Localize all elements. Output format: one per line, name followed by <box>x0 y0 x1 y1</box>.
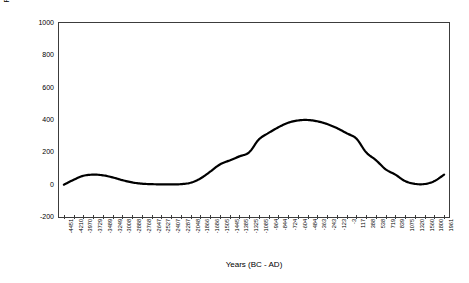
x-tick-mark <box>103 215 104 219</box>
y-tick-label: 600 <box>8 84 54 92</box>
x-tick-mark <box>200 215 201 219</box>
x-tick-label: -3008 <box>125 219 133 253</box>
x-tick-mark <box>405 215 406 219</box>
x-tick-label: 1961 <box>447 219 455 253</box>
x-tick-label: -1085 <box>262 219 270 253</box>
pollen-curve-svg <box>59 23 449 217</box>
x-tick-mark <box>376 215 377 219</box>
x-tick-mark <box>395 215 396 219</box>
x-tick-label: 538 <box>379 219 387 253</box>
x-tick-label: -964 <box>272 219 280 253</box>
x-tick-mark <box>239 215 240 219</box>
x-tick-label: -1866 <box>203 219 211 253</box>
x-tick-label: -1686 <box>213 219 221 253</box>
x-tick-mark <box>278 215 279 219</box>
x-tick-mark <box>288 215 289 219</box>
x-tick-mark <box>269 215 270 219</box>
y-tick-label: -200 <box>8 213 54 221</box>
x-tick-mark <box>386 215 387 219</box>
x-tick-mark <box>220 215 221 219</box>
x-axis-title: Years (BC - AD) <box>58 259 450 270</box>
x-tick-label: -1385 <box>242 219 250 253</box>
x-tick-mark <box>415 215 416 219</box>
x-tick-label: -2048 <box>194 219 202 253</box>
y-tick-label: 800 <box>8 51 54 59</box>
x-tick-mark <box>366 215 367 219</box>
x-tick-mark <box>142 215 143 219</box>
x-tick-label: -4210 <box>77 219 85 253</box>
x-tick-mark <box>122 215 123 219</box>
x-tick-mark <box>327 215 328 219</box>
x-tick-label: -2407 <box>174 219 182 253</box>
x-tick-label: 719 <box>389 219 397 253</box>
x-tick-label: -3249 <box>116 219 124 253</box>
plot-area <box>58 22 450 218</box>
x-tick-mark <box>308 215 309 219</box>
y-tick-label: 1000 <box>8 19 54 27</box>
x-tick-mark <box>298 215 299 219</box>
x-tick-label: -2287 <box>184 219 192 253</box>
x-tick-mark <box>444 215 445 219</box>
x-tick-mark <box>425 215 426 219</box>
x-tick-label: -844 <box>281 219 289 253</box>
x-tick-mark <box>249 215 250 219</box>
x-tick-mark <box>64 215 65 219</box>
x-axis-tick-labels: -4451-4210-3970-3729-3489-3249-3008-2888… <box>58 219 450 253</box>
x-tick-label: 117 <box>359 219 367 253</box>
pollen-count-line <box>64 120 444 185</box>
x-tick-label: -363 <box>320 219 328 253</box>
x-tick-label: -2888 <box>135 219 143 253</box>
x-tick-mark <box>347 215 348 219</box>
x-tick-label: -2527 <box>164 219 172 253</box>
x-tick-mark <box>161 215 162 219</box>
x-tick-label: -3970 <box>86 219 94 253</box>
x-tick-mark <box>434 215 435 219</box>
y-axis-tick-labels: 10008006004002000-200 <box>4 0 54 283</box>
pollen-count-chart: Plantago Pollen Count 10008006004002000-… <box>0 0 469 283</box>
x-tick-label: -1325 <box>252 219 260 253</box>
x-tick-label: 1800 <box>437 219 445 253</box>
x-tick-mark <box>171 215 172 219</box>
x-tick-mark <box>210 215 211 219</box>
x-tick-mark <box>181 215 182 219</box>
x-tick-label: 839 <box>398 219 406 253</box>
x-tick-label: 388 <box>369 219 377 253</box>
x-tick-mark <box>152 215 153 219</box>
x-tick-label: -3 <box>350 219 358 253</box>
x-tick-mark <box>317 215 318 219</box>
x-tick-label: -2647 <box>155 219 163 253</box>
x-tick-label: -1505 <box>223 219 231 253</box>
y-tick-label: 200 <box>8 148 54 156</box>
x-tick-mark <box>259 215 260 219</box>
x-tick-label: -484 <box>311 219 319 253</box>
x-tick-label: -1445 <box>233 219 241 253</box>
x-tick-label: -123 <box>340 219 348 253</box>
x-tick-label: 1075 <box>408 219 416 253</box>
x-tick-label: -3729 <box>96 219 104 253</box>
x-tick-label: -604 <box>301 219 309 253</box>
x-tick-mark <box>191 215 192 219</box>
x-tick-mark <box>132 215 133 219</box>
x-tick-mark <box>83 215 84 219</box>
y-tick-label: 0 <box>8 181 54 189</box>
x-tick-label: -2768 <box>145 219 153 253</box>
x-tick-mark <box>230 215 231 219</box>
x-tick-label: -243 <box>330 219 338 253</box>
x-tick-label: 1560 <box>428 219 436 253</box>
x-tick-mark <box>337 215 338 219</box>
x-tick-label: 1320 <box>418 219 426 253</box>
x-tick-mark <box>113 215 114 219</box>
x-tick-mark <box>74 215 75 219</box>
x-tick-label: -4451 <box>67 219 75 253</box>
x-tick-label: -724 <box>291 219 299 253</box>
x-tick-mark <box>93 215 94 219</box>
x-tick-mark <box>356 215 357 219</box>
x-tick-label: -3489 <box>106 219 114 253</box>
y-tick-label: 400 <box>8 116 54 124</box>
